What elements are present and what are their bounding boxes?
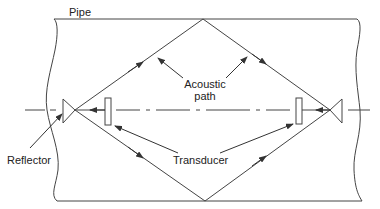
diagram-svg bbox=[0, 0, 380, 209]
left-transducer-icon bbox=[105, 98, 111, 125]
right-reflector-icon bbox=[330, 99, 342, 123]
pipe-label: Pipe bbox=[69, 6, 91, 18]
left-reflector-icon bbox=[63, 99, 75, 123]
acoustic-path bbox=[75, 19, 330, 201]
acoustic-path-label-line2: path bbox=[180, 90, 230, 102]
reflector-label: Reflector bbox=[7, 154, 51, 166]
right-transducer-icon bbox=[296, 98, 302, 124]
acoustic-path-label-line1: Acoustic bbox=[180, 78, 230, 90]
acoustic-path-label: Acoustic path bbox=[180, 78, 230, 102]
transducer-label: Transducer bbox=[173, 154, 228, 166]
diagram-canvas: Pipe Acoustic path Reflector Transducer bbox=[0, 0, 380, 209]
